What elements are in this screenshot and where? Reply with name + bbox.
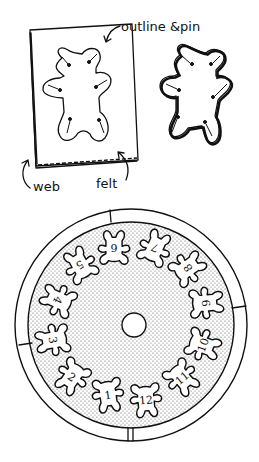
label-web: web <box>33 179 60 194</box>
center-hole <box>122 313 146 337</box>
illustration: outline &pin web felt 1 2 3 <box>0 0 259 462</box>
arrow-icon <box>22 160 30 188</box>
web-layer-outline <box>30 33 137 168</box>
bear-cutout-pinned <box>160 45 232 145</box>
label-felt: felt <box>96 176 117 191</box>
label-outline-pin: outline &pin <box>121 19 200 34</box>
annotation-felt: felt <box>96 152 128 191</box>
svg-text:9: 9 <box>200 299 214 307</box>
felt-sheet-outline <box>30 24 138 166</box>
felt-and-web-layers <box>30 24 138 168</box>
svg-text:6: 6 <box>111 241 118 254</box>
arrow-icon <box>118 152 128 180</box>
bear-outline-pinned <box>43 48 111 141</box>
svg-text:12: 12 <box>139 393 154 407</box>
arrow-icon <box>104 26 120 42</box>
annotation-outline-pin: outline &pin <box>104 19 200 42</box>
